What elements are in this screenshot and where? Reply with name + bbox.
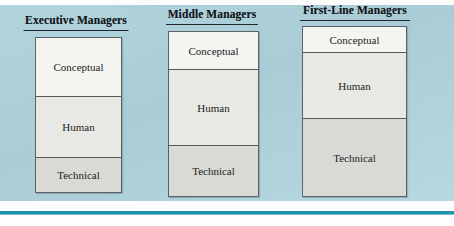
segment-label: Conceptual xyxy=(53,61,103,73)
segment-label: Human xyxy=(338,80,370,92)
segment-conceptual-middle: Conceptual xyxy=(169,32,258,69)
column-title-first-line-managers: First-Line Managers xyxy=(303,4,407,16)
segment-label: Human xyxy=(197,102,229,114)
segment-technical-first-line: Technical xyxy=(303,118,406,196)
column-executive-managers: Executive Managers Conceptual Human Tech… xyxy=(14,14,138,196)
column-title-middle-managers: Middle Managers xyxy=(168,8,257,20)
segment-human-executive: Human xyxy=(36,96,121,157)
figure-root: Executive Managers Conceptual Human Tech… xyxy=(0,0,454,226)
segment-label: Conceptual xyxy=(188,45,238,57)
segment-human-first-line: Human xyxy=(303,52,406,118)
column-title-underline-first-line xyxy=(300,20,410,21)
segment-technical-middle: Technical xyxy=(169,145,258,196)
segment-label: Technical xyxy=(57,169,100,181)
column-title-underline-executive xyxy=(24,30,129,31)
column-title-executive-managers: Executive Managers xyxy=(25,14,127,26)
segment-label: Technical xyxy=(192,165,235,177)
segment-technical-executive: Technical xyxy=(36,157,121,192)
skill-stack-middle: Conceptual Human Technical xyxy=(168,31,259,197)
segment-label: Technical xyxy=(333,152,376,164)
column-title-underline-middle xyxy=(166,24,258,25)
segment-label: Human xyxy=(62,121,94,133)
column-middle-managers: Middle Managers Conceptual Human Technic… xyxy=(150,8,274,200)
skill-stack-first-line: Conceptual Human Technical xyxy=(302,26,407,197)
segment-conceptual-first-line: Conceptual xyxy=(303,27,406,52)
segment-conceptual-executive: Conceptual xyxy=(36,38,121,96)
skill-stack-executive: Conceptual Human Technical xyxy=(35,37,122,193)
column-first-line-managers: First-Line Managers Conceptual Human Tec… xyxy=(288,4,422,200)
bottom-accent-rule-shadow xyxy=(0,214,454,215)
segment-human-middle: Human xyxy=(169,69,258,145)
segment-label: Conceptual xyxy=(329,34,379,46)
